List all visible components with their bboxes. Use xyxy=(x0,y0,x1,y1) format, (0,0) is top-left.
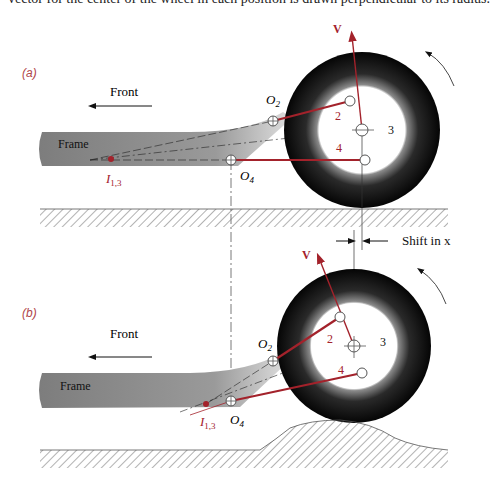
link3-label: 3 xyxy=(388,123,394,137)
link4-label-b: 4 xyxy=(338,363,344,377)
pivot-upper-b xyxy=(335,312,345,322)
o2-pivot-b xyxy=(268,356,278,366)
rotation-arrow-icon xyxy=(428,53,454,86)
o4-label-b: O4 xyxy=(230,412,244,429)
pivot-lower-b xyxy=(357,368,367,378)
ic-label: I1,3 xyxy=(105,171,122,188)
rotation-arrow-b-icon xyxy=(420,270,446,304)
link2-label-b: 2 xyxy=(327,332,333,346)
instant-center-dot xyxy=(108,156,114,162)
link2-label: 2 xyxy=(335,109,341,123)
frame-label: Frame xyxy=(58,137,89,151)
panel-a-tag: (a) xyxy=(22,66,37,80)
instant-center-dot-b xyxy=(203,401,209,407)
ground-a xyxy=(40,209,448,227)
panel-b: (b) Front Frame V xyxy=(22,248,448,468)
o4-pivot xyxy=(226,155,236,165)
pivot-lower xyxy=(360,155,370,165)
o4-pivot-b xyxy=(226,396,236,406)
o2-label-b: O2 xyxy=(258,336,272,353)
front-label: Front xyxy=(110,84,139,99)
link4-label: 4 xyxy=(336,141,342,155)
ground-bump xyxy=(40,420,448,468)
o2-pivot xyxy=(268,116,278,126)
o4-label: O4 xyxy=(240,168,254,185)
ic-label-b: I1,3 xyxy=(199,414,216,431)
velocity-label-b: V xyxy=(302,248,311,262)
panel-b-tag: (b) xyxy=(22,306,37,320)
front-label-b: Front xyxy=(110,326,139,341)
link3-label-b: 3 xyxy=(380,335,386,349)
pivot-upper xyxy=(345,96,355,106)
velocity-label: V xyxy=(333,22,342,36)
o2-label: O2 xyxy=(266,92,280,109)
shift-label: Shift in x xyxy=(402,233,451,248)
frame-label-b: Frame xyxy=(60,379,91,393)
